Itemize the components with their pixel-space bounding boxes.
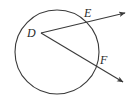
ray-de [41,13,125,33]
ray-df [41,33,123,82]
label-d: D [26,26,36,40]
label-e: E [83,6,92,20]
geometry-diagram: D E F [0,0,130,97]
label-f: F [99,53,108,67]
